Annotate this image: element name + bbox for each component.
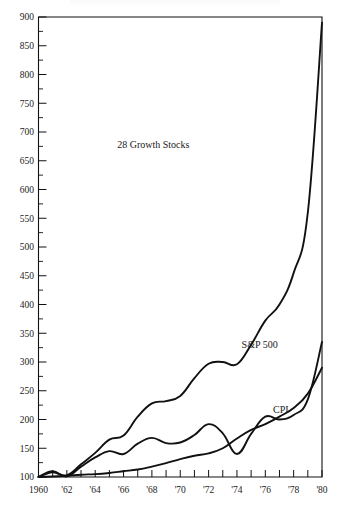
x-tick-label: 1960 bbox=[29, 485, 48, 495]
y-tick-label: 500 bbox=[20, 242, 35, 252]
x-tick-label: '64 bbox=[90, 485, 101, 495]
chart-series-annotations: 28 Growth StocksS&P 500CPI bbox=[117, 139, 288, 415]
x-tick-label: '74 bbox=[231, 485, 242, 495]
chart-figure: 1001502002503003504004505005506006507007… bbox=[0, 0, 345, 517]
series-label-28-growth-stocks: 28 Growth Stocks bbox=[117, 139, 189, 150]
x-tick-label: '70 bbox=[175, 485, 186, 495]
series-line-cpi bbox=[39, 368, 323, 477]
y-tick-label: 150 bbox=[20, 444, 35, 454]
y-tick-label: 900 bbox=[20, 12, 35, 22]
x-tick-label: '62 bbox=[61, 485, 72, 495]
y-tick-label: 800 bbox=[20, 70, 35, 80]
y-tick-label: 650 bbox=[20, 156, 35, 166]
y-tick-label: 250 bbox=[20, 386, 35, 396]
y-tick-label: 600 bbox=[20, 185, 35, 195]
x-tick-label: '68 bbox=[146, 485, 157, 495]
y-tick-label: 850 bbox=[20, 41, 35, 51]
x-tick-label: '72 bbox=[203, 485, 214, 495]
y-tick-label: 550 bbox=[20, 214, 35, 224]
x-axis-tick-labels: 1960'62'64'66'68'70'72'74'76'78'80 bbox=[29, 485, 328, 495]
y-tick-label: 750 bbox=[20, 99, 35, 109]
line-chart: 1001502002503003504004505005506006507007… bbox=[0, 0, 345, 517]
y-tick-label: 700 bbox=[20, 127, 35, 137]
y-tick-label: 400 bbox=[20, 300, 35, 310]
x-tick-label: '76 bbox=[260, 485, 271, 495]
y-tick-label: 300 bbox=[20, 357, 35, 367]
x-tick-label: '78 bbox=[288, 485, 299, 495]
x-tick-label: '80 bbox=[316, 485, 327, 495]
y-tick-label: 200 bbox=[20, 415, 35, 425]
y-axis-tick-labels: 1001502002503003504004505005506006507007… bbox=[20, 12, 35, 482]
series-label-cpi: CPI bbox=[273, 404, 289, 415]
series-label-s-p-500: S&P 500 bbox=[242, 339, 278, 350]
y-tick-label: 350 bbox=[20, 329, 35, 339]
x-tick-label: '66 bbox=[118, 485, 129, 495]
y-tick-label: 100 bbox=[20, 472, 35, 482]
y-tick-label: 450 bbox=[20, 271, 35, 281]
